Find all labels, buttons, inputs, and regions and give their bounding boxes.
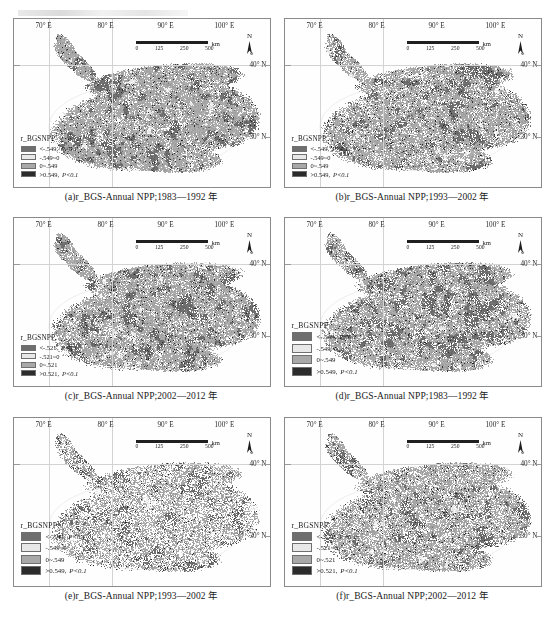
legend-swatch [21, 370, 36, 376]
scale-tick-0: 0 [407, 443, 410, 449]
legend-label: -.549~0 [317, 345, 338, 352]
map-panel-cell: 70° E 80° E 90° E 100° E 40° N 30° N km … [12, 417, 271, 616]
lon-label-70e: 70° E [36, 421, 52, 429]
legend-significance-wrap: P<0.1 [62, 171, 78, 178]
scale-bar: km 0 125 250 500 [136, 440, 222, 450]
lon-label-70e: 70° E [307, 221, 323, 229]
panel-caption-f: (f)r_BGS-Annual NPP;2002—2012 年 [336, 590, 488, 602]
lon-label-70e: 70° E [36, 221, 52, 229]
legend-item: >0.549,P<0.1 [21, 566, 87, 575]
legend-swatch [292, 555, 312, 564]
legend-swatch [292, 171, 307, 177]
scale-tick-250: 250 [451, 45, 459, 51]
legend-rows: <-.549,P<0.1-.549~00~.549>0.549,P<0.1 [292, 332, 358, 376]
north-arrow: N [513, 232, 529, 254]
lon-label-90e: 90° E [429, 421, 445, 429]
scale-bar-unit: km [212, 239, 220, 246]
legend-label: >0.521, [40, 370, 60, 377]
page-artifact-smudge [18, 10, 188, 16]
panel-caption-a: (a)r_BGS-Annual NPP;1983—1992 年 [65, 191, 219, 203]
legend-significance-wrap: P<0.1 [333, 171, 349, 178]
map-legend-c: r_BGSNPP <-.521,P<0.1-.521~00~.521>0.521… [21, 334, 79, 378]
legend-significance-wrap: P<0.1 [339, 533, 356, 540]
north-arrow-label: N [513, 33, 529, 40]
north-arrow: N [513, 33, 529, 55]
legend-swatch [21, 543, 41, 552]
legend-title: r_BGSNPP [292, 321, 358, 330]
legend-rows: <-.549,P<0.1-.549~00~.549>0.549,P<0.1 [21, 532, 87, 576]
scale-bar-unit: km [483, 239, 491, 246]
map-panel-cell: 70° E 80° E 90° E 100° E 40° N 30° N km … [12, 18, 271, 217]
legend-title: r_BGSNPP [21, 521, 87, 530]
legend-significance: P<0.1 [340, 567, 357, 574]
legend-item: 0~.549 [292, 162, 350, 169]
lon-label-100e: 100° E [486, 221, 506, 229]
legend-swatch [292, 543, 312, 552]
map-panel-c[interactable]: 70° E 80° E 90° E 100° E 40° N 30° N km … [13, 217, 271, 387]
north-arrow-label: N [513, 232, 529, 239]
scale-tick-125: 125 [426, 45, 434, 51]
lon-label-70e: 70° E [307, 421, 323, 429]
legend-title: r_BGSNPP [292, 521, 358, 530]
panel-caption-b: (b)r_BGS-Annual NPP;1993—2002 年 [335, 191, 489, 203]
legend-swatch [292, 146, 307, 152]
legend-label: -.549~0 [40, 154, 60, 161]
legend-item: -.549~0 [292, 344, 358, 353]
legend-label: <-.521, [40, 344, 59, 351]
scale-bar-ticks: 0 125 250 500 [136, 45, 214, 51]
legend-swatch [292, 355, 312, 364]
lon-label-100e: 100° E [215, 22, 235, 30]
legend-item: -.521~0 [292, 543, 358, 552]
legend-significance: P<0.1 [69, 567, 86, 574]
legend-label: <-.549, [311, 145, 330, 152]
legend-significance-wrap: P<0.1 [69, 567, 86, 574]
legend-rows: <-.521,P<0.1-.521~00~.521>0.521,P<0.1 [21, 344, 79, 377]
legend-item: 0~.521 [292, 555, 358, 564]
legend-label: <-.549, [317, 333, 337, 340]
legend-item: -.549~0 [21, 543, 87, 552]
lon-label-100e: 100° E [486, 421, 506, 429]
map-panel-f[interactable]: 70° E 80° E 90° E 100° E 40° N 30° N km … [284, 417, 542, 587]
north-arrow-icon [245, 440, 254, 454]
legend-item: >0.521,P<0.1 [21, 370, 79, 377]
north-arrow-label: N [242, 432, 258, 439]
legend-label: >0.549, [311, 171, 331, 178]
panel-caption-e: (e)r_BGS-Annual NPP;1993—2002 年 [65, 590, 219, 602]
scale-tick-250: 250 [180, 443, 188, 449]
legend-item: >0.549,P<0.1 [21, 171, 79, 178]
legend-swatch [292, 154, 307, 160]
north-arrow: N [513, 432, 529, 454]
legend-significance: P<0.1 [339, 533, 356, 540]
legend-significance: P<0.1 [62, 171, 78, 178]
legend-swatch [292, 332, 312, 341]
legend-label: >0.549, [40, 171, 60, 178]
map-panel-e[interactable]: 70° E 80° E 90° E 100° E 40° N 30° N km … [13, 417, 271, 587]
map-panel-b[interactable]: 70° E 80° E 90° E 100° E 40° N 30° N km … [284, 18, 542, 188]
map-panel-cell: 70° E 80° E 90° E 100° E 40° N 30° N km … [12, 217, 271, 416]
map-panel-a[interactable]: 70° E 80° E 90° E 100° E 40° N 30° N km … [13, 18, 271, 188]
legend-item: >0.521,P<0.1 [292, 566, 358, 575]
legend-rows: <-.549,P<0.1-.549~00~.549>0.549,P<0.1 [21, 145, 79, 178]
legend-label: -.521~0 [317, 544, 338, 551]
panel-grid: 70° E 80° E 90° E 100° E 40° N 30° N km … [12, 18, 542, 616]
lon-label-80e: 80° E [369, 221, 385, 229]
legend-rows: <-.521,P<0.1-.521~00~.521>0.521,P<0.1 [292, 532, 358, 576]
lon-label-100e: 100° E [486, 22, 506, 30]
legend-item: 0~.549 [21, 162, 79, 169]
legend-significance-wrap: P<0.1 [61, 344, 77, 351]
legend-significance: P<0.1 [339, 333, 356, 340]
lon-label-80e: 80° E [369, 22, 385, 30]
map-legend-a: r_BGSNPP <-.549,P<0.1-.549~00~.549>0.549… [21, 135, 79, 179]
legend-swatch [292, 344, 312, 353]
scale-bar-ticks: 0 125 250 500 [136, 244, 214, 250]
lon-label-100e: 100° E [215, 421, 235, 429]
north-arrow-label: N [242, 33, 258, 40]
scale-tick-0: 0 [136, 244, 139, 250]
scale-tick-250: 250 [180, 244, 188, 250]
legend-title: r_BGSNPP [21, 135, 79, 143]
legend-label: 0~.521 [40, 361, 58, 368]
legend-swatch [292, 163, 307, 169]
lon-label-90e: 90° E [158, 221, 174, 229]
legend-significance: P<0.1 [61, 344, 77, 351]
map-panel-d[interactable]: 70° E 80° E 90° E 100° E 40° N 30° N km … [284, 217, 542, 387]
